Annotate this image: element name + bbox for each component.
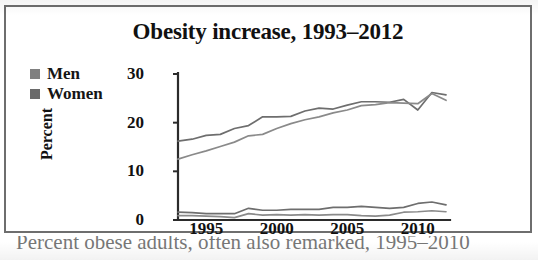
figure-page: Obesity increase, 1993–2012 Men Women Pe… [0, 0, 538, 260]
plot-area: Percent 0102030 1995200020052010 [6, 7, 534, 235]
series-line-women [178, 93, 446, 159]
figure-caption-strip: Percent obese adults, often also remarke… [0, 236, 538, 260]
line-chart-svg [6, 7, 534, 235]
series-line-men [178, 92, 446, 141]
figure-frame: Obesity increase, 1993–2012 Men Women Pe… [4, 5, 532, 233]
figure-caption: Percent obese adults, often also remarke… [16, 236, 470, 255]
